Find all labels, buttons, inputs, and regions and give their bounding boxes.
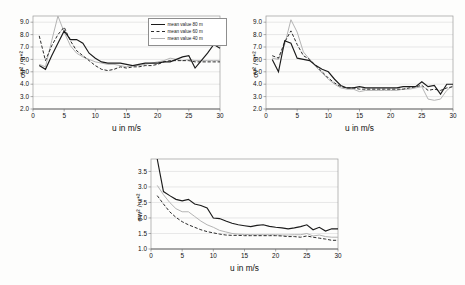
legend-label-60m: mean value 60 m [168, 29, 203, 35]
plot-canvas-sigma-w: 1.01.52.02.53.03.5051015202530 [115, 145, 350, 267]
svg-text:15: 15 [241, 252, 249, 259]
svg-text:30: 30 [449, 112, 457, 119]
svg-text:5: 5 [62, 112, 66, 119]
svg-text:20: 20 [387, 112, 395, 119]
y-axis-label-sigma-u: σu² / u*² [18, 35, 27, 95]
legend: mean value 80 m mean value 60 m mean val… [148, 18, 227, 46]
legend-item-40m: mean value 40 m [151, 36, 223, 42]
svg-text:2.0: 2.0 [253, 105, 262, 112]
svg-text:1.0: 1.0 [138, 245, 147, 252]
x-axis-label-sigma-w: u in m/s [151, 263, 338, 273]
legend-item-60m: mean value 60 m [151, 29, 223, 35]
chart-panel-sigma-w: σw² / u*² 1.01.52.02.53.03.5051015202530… [115, 145, 350, 285]
svg-text:25: 25 [185, 112, 193, 119]
svg-text:20: 20 [154, 112, 162, 119]
svg-text:20: 20 [272, 252, 280, 259]
chart-panel-sigma-u: σu² / u*² 2.03.04.05.06.07.08.09.0051015… [0, 0, 232, 145]
svg-text:0: 0 [149, 252, 153, 259]
svg-text:30: 30 [216, 112, 224, 119]
svg-text:0: 0 [31, 112, 35, 119]
svg-text:30: 30 [334, 252, 342, 259]
x-axis-label-sigma-v: u in m/s [266, 123, 453, 133]
svg-text:9.0: 9.0 [20, 18, 29, 25]
legend-label-80m: mean value 80 m [168, 22, 203, 28]
svg-text:9.0: 9.0 [253, 18, 262, 25]
svg-text:25: 25 [418, 112, 426, 119]
y-axis-label-sigma-w: σw² / u*² [135, 178, 144, 238]
svg-text:10: 10 [92, 112, 100, 119]
svg-text:15: 15 [123, 112, 131, 119]
legend-item-80m: mean value 80 m [151, 22, 223, 28]
legend-label-40m: mean value 40 m [168, 36, 203, 42]
chart-panel-sigma-v: σv² / u*² 2.03.04.05.06.07.08.09.0051015… [233, 0, 465, 145]
svg-text:5: 5 [180, 252, 184, 259]
y-axis-label-sigma-v: σv² / u*² [251, 35, 260, 95]
series-line-m40 [272, 20, 453, 101]
plot-canvas-sigma-v: 2.03.04.05.06.07.08.09.0051015202530 [233, 0, 465, 127]
x-axis-label-sigma-u: u in m/s [33, 123, 220, 133]
svg-text:15: 15 [356, 112, 364, 119]
svg-text:10: 10 [325, 112, 333, 119]
svg-text:3.5: 3.5 [138, 168, 147, 175]
svg-text:10: 10 [210, 252, 218, 259]
svg-text:2.0: 2.0 [20, 105, 29, 112]
series-line-m80 [157, 159, 338, 231]
series-line-m40 [157, 185, 338, 237]
svg-text:0: 0 [264, 112, 268, 119]
svg-text:5: 5 [295, 112, 299, 119]
svg-text:25: 25 [303, 252, 311, 259]
